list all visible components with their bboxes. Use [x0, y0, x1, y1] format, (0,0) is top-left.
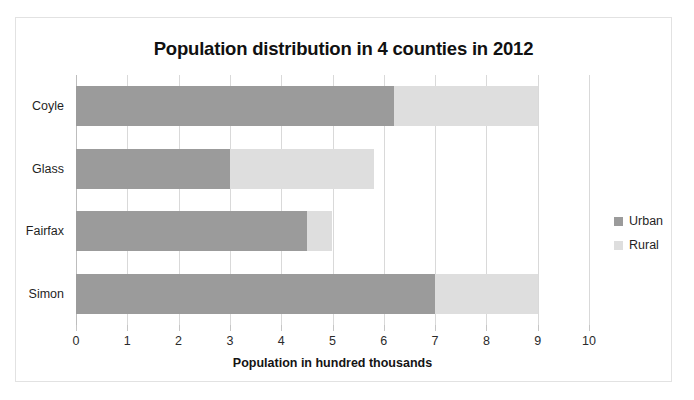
category-label-simon: Simon [29, 287, 64, 301]
bar-segment-fairfax-rural[interactable] [307, 211, 333, 251]
bar-segment-coyle-urban[interactable] [76, 86, 394, 126]
legend-label-urban: Urban [629, 214, 663, 228]
legend-swatch-rural [614, 241, 623, 250]
x-tick-label-7: 7 [432, 334, 439, 348]
bar-row-fairfax[interactable]: Fairfax [76, 211, 589, 251]
legend-item-urban[interactable]: Urban [614, 214, 663, 228]
x-tick-9 [538, 325, 539, 331]
x-tick-label-0: 0 [73, 334, 80, 348]
x-tick-6 [384, 325, 385, 331]
x-tick-1 [127, 325, 128, 331]
x-tick-4 [281, 325, 282, 331]
legend-item-rural[interactable]: Rural [614, 238, 663, 252]
x-tick-label-3: 3 [226, 334, 233, 348]
bar-segment-glass-rural[interactable] [230, 149, 374, 189]
bar-row-coyle[interactable]: Coyle [76, 86, 589, 126]
x-tick-8 [486, 325, 487, 331]
chart-frame: Population distribution in 4 counties in… [15, 17, 672, 382]
x-tick-2 [179, 325, 180, 331]
x-tick-label-1: 1 [124, 334, 131, 348]
x-tick-label-6: 6 [380, 334, 387, 348]
x-tick-label-4: 4 [278, 334, 285, 348]
category-label-coyle: Coyle [32, 99, 64, 113]
bar-row-simon[interactable]: Simon [76, 274, 589, 314]
bar-segment-simon-urban[interactable] [76, 274, 435, 314]
legend-label-rural: Rural [629, 238, 659, 252]
bar-segment-glass-urban[interactable] [76, 149, 230, 189]
bar-segment-simon-rural[interactable] [435, 274, 538, 314]
x-axis-title: Population in hundred thousands [76, 356, 589, 370]
x-tick-3 [230, 325, 231, 331]
category-label-fairfax: Fairfax [26, 224, 64, 238]
x-tick-label-5: 5 [329, 334, 336, 348]
gridline-x-10 [589, 75, 590, 325]
x-tick-10 [589, 325, 590, 331]
bar-segment-fairfax-urban[interactable] [76, 211, 307, 251]
x-tick-label-9: 9 [534, 334, 541, 348]
category-label-glass: Glass [32, 162, 64, 176]
x-tick-7 [435, 325, 436, 331]
bar-segment-coyle-rural[interactable] [394, 86, 538, 126]
x-tick-0 [76, 325, 77, 331]
plot-area: 012345678910CoyleGlassFairfaxSimon [76, 75, 589, 325]
chart-title: Population distribution in 4 counties in… [16, 38, 671, 60]
x-tick-5 [333, 325, 334, 331]
x-tick-label-8: 8 [483, 334, 490, 348]
chart-legend: Urban Rural [614, 214, 663, 262]
bar-row-glass[interactable]: Glass [76, 149, 589, 189]
x-tick-label-2: 2 [175, 334, 182, 348]
legend-swatch-urban [614, 217, 623, 226]
x-tick-label-10: 10 [582, 334, 596, 348]
